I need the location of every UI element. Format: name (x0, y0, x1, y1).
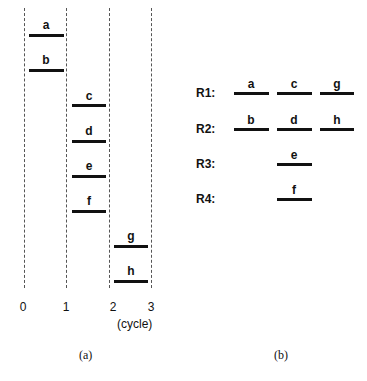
task-bar-g (114, 245, 148, 248)
task-bar-e (72, 175, 106, 178)
cycle-0-gridline (24, 8, 25, 288)
slot-bar-r1-3 (320, 92, 354, 95)
slot-bar-r3-2 (277, 163, 312, 166)
slot-bar-r4-2 (277, 198, 312, 201)
caption-a: (a) (79, 348, 92, 363)
task-label-g: g (121, 229, 141, 243)
slot-bar-r1-2 (277, 92, 312, 95)
task-label-h: h (121, 264, 141, 278)
cycle-1-gridline (66, 8, 67, 288)
row-label-r4: R4: (196, 192, 215, 206)
task-label-d: d (79, 124, 99, 138)
row-label-r3: R3: (196, 157, 215, 171)
slot-label-g: g (327, 77, 347, 91)
task-label-c: c (79, 89, 99, 103)
slot-label-b: b (241, 113, 261, 127)
slot-bar-r1-1 (234, 92, 269, 95)
tick-0: 0 (15, 300, 31, 314)
task-label-b: b (36, 53, 56, 67)
slot-bar-r2-1 (234, 128, 269, 131)
task-label-f: f (79, 194, 99, 208)
tick-2: 2 (105, 300, 121, 314)
task-bar-a (29, 34, 64, 37)
slot-label-d: d (284, 113, 304, 127)
slot-bar-r2-2 (277, 128, 312, 131)
task-bar-f (72, 210, 106, 213)
row-label-r2: R2: (196, 122, 215, 136)
row-label-r1: R1: (196, 86, 215, 100)
slot-label-c: c (284, 77, 304, 91)
axis-unit-label: (cycle) (117, 317, 152, 331)
cycle-3-gridline (151, 8, 152, 288)
slot-label-f: f (284, 183, 304, 197)
slot-label-h: h (327, 113, 347, 127)
slot-label-a: a (241, 77, 261, 91)
task-bar-c (72, 104, 106, 107)
cycle-2-gridline (109, 8, 110, 288)
slot-label-e: e (284, 148, 304, 162)
task-bar-h (114, 280, 148, 283)
slot-bar-r2-3 (320, 128, 354, 131)
caption-b: (b) (274, 348, 288, 363)
task-bar-d (72, 140, 106, 143)
task-label-a: a (36, 18, 56, 32)
task-bar-b (29, 69, 64, 72)
tick-1: 1 (58, 300, 74, 314)
task-label-e: e (79, 159, 99, 173)
tick-3: 3 (143, 300, 159, 314)
